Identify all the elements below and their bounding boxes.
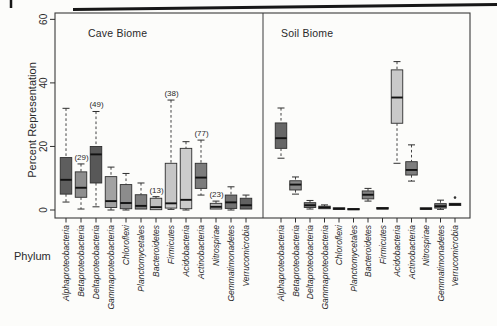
box-soil-actinobacteria xyxy=(406,162,418,175)
box-cave-alphaproteobacteria xyxy=(60,158,72,195)
count-label: (23) xyxy=(209,190,224,199)
x-tick-label: Betaproteobacteria xyxy=(291,225,301,297)
panel-title-cave-biome: Cave Biome xyxy=(88,27,147,39)
box-cave-betaproteobacteria xyxy=(75,172,87,197)
x-tick-label: Chloroflexi xyxy=(334,224,344,265)
x-tick-label: Firmicutes xyxy=(166,224,176,264)
x-tick-label: Bacteroidetes xyxy=(363,224,373,277)
box-soil-alphaproteobacteria xyxy=(275,123,287,148)
x-tick-label: Actinobacteria xyxy=(407,225,417,280)
x-tick-label: Gammaproteobacteria xyxy=(320,225,330,310)
x-tick-label: Gemmatimonadetes xyxy=(226,224,236,301)
x-tick-label: Actinobacteria xyxy=(196,225,206,280)
x-tick-label: Nitrospirae xyxy=(421,225,431,266)
x-tick-label: Planctomycetales xyxy=(136,224,146,291)
x-tick-label: Verrucomicrobia xyxy=(450,225,460,287)
x-tick-label: Bacteroidetes xyxy=(151,224,161,277)
x-tick-label: Deltaproteobacteria xyxy=(91,225,101,299)
box-cave-gammaproteobacteria xyxy=(105,177,117,208)
x-tick-label: Acidobacteria xyxy=(181,225,191,278)
box-cave-chloroflexi xyxy=(120,185,132,209)
box-soil-acidobacteria xyxy=(391,70,403,123)
box-cave-verrucomicrobia xyxy=(240,198,252,209)
count-label: (77) xyxy=(194,129,209,138)
x-tick-label: Acidobacteria xyxy=(392,225,402,278)
count-label: (29) xyxy=(74,153,89,162)
count-label: (13) xyxy=(149,186,164,195)
y-tick-label: 40 xyxy=(38,77,49,89)
x-tick-label: Gammaproteobacteria xyxy=(106,225,116,310)
x-tick-label: Firmicutes xyxy=(378,224,388,264)
x-tick-label: Planctomycetales xyxy=(349,224,359,291)
x-tick-label: Verrucomicrobia xyxy=(241,225,251,287)
x-tick-label: Chloroflexi xyxy=(121,224,131,265)
count-label: (38) xyxy=(164,89,179,98)
x-tick-label: Deltaproteobacteria xyxy=(305,225,315,299)
x-tick-label: Betaproteobacteria xyxy=(76,225,86,297)
x-tick-label: Alphaproteobacteria xyxy=(276,225,286,302)
x-tick-label: Nitrospirae xyxy=(211,225,221,266)
x-tick-label: Alphaproteobacteria xyxy=(61,225,71,302)
x-tick-label: Gemmatimonadetes xyxy=(436,224,446,301)
y-axis-title: Percent Representation xyxy=(26,62,38,178)
y-tick-label: 60 xyxy=(38,13,49,25)
box-cave-deltaproteobacteria xyxy=(90,146,102,183)
x-axis-title: Phylum xyxy=(14,250,51,262)
box-cave-firmicutes xyxy=(165,163,177,208)
box-cave-planctomycetales xyxy=(135,195,147,209)
y-tick-label: 0 xyxy=(38,207,49,213)
panel-title-soil-biome: Soil Biome xyxy=(281,27,333,39)
scan-artifact-top-rule xyxy=(73,5,497,10)
boxplot-canvas: 0204060Alphaproteobacteria(29)Betaproteo… xyxy=(0,0,497,326)
y-tick-label: 20 xyxy=(38,140,49,152)
count-label: (49) xyxy=(89,100,104,109)
outlier-point xyxy=(454,196,457,199)
boxplot-figure: 0204060Alphaproteobacteria(29)Betaproteo… xyxy=(0,0,497,326)
box-cave-actinobacteria xyxy=(195,163,207,188)
